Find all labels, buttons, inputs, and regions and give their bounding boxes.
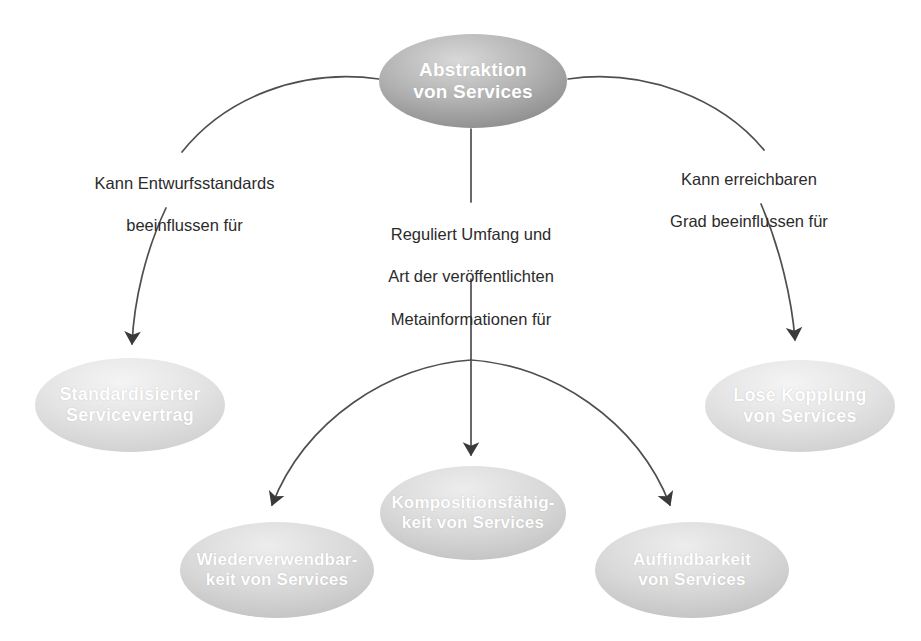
node-standardisierter-servicevertrag[interactable] (35, 358, 225, 452)
node-kompositionsfaehigkeit-von-services[interactable] (380, 466, 566, 560)
edge-label-center-line3: Metainformationen für (351, 309, 591, 330)
edge-label-center-line2: Art der veröffentlichten (351, 266, 591, 287)
edge-label-center: Reguliert Umfang und Art der veröffentli… (351, 203, 591, 351)
edge-label-right: Kann erreichbaren Grad beeinflussen für (639, 148, 859, 254)
edge-label-left-line2: beeinflussen für (62, 215, 307, 236)
connector-right-upper (568, 77, 764, 150)
node-lose-kopplung-von-services[interactable] (705, 360, 895, 452)
edge-label-left-line1: Kann Entwurfsstandards (62, 173, 307, 194)
connector-left-upper (182, 77, 379, 152)
diagram-canvas: Abstraktion von Services Standardisierte… (0, 0, 921, 641)
node-auffindbarkeit-von-services[interactable] (595, 522, 789, 618)
node-wiederverwendbarkeit-von-services[interactable] (180, 522, 374, 618)
edge-label-left: Kann Entwurfsstandards beeinflussen für (62, 152, 307, 258)
edge-label-right-line1: Kann erreichbaren (639, 169, 859, 190)
edge-label-right-line2: Grad beeinflussen für (639, 211, 859, 232)
node-abstraktion-von-services[interactable] (379, 34, 567, 128)
edge-label-center-line1: Reguliert Umfang und (351, 224, 591, 245)
